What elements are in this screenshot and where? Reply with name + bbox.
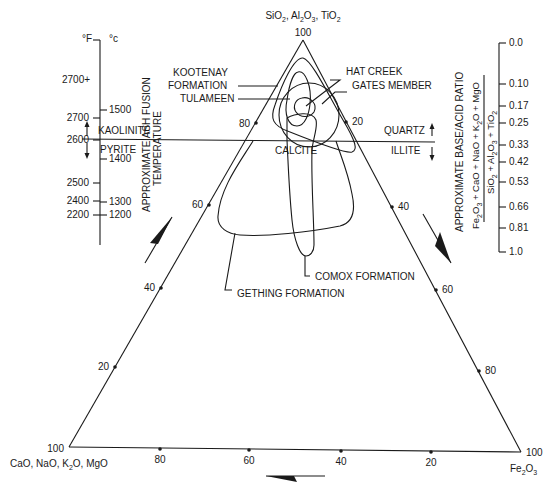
svg-text:20: 20 bbox=[352, 116, 364, 127]
svg-text:0.10: 0.10 bbox=[509, 78, 529, 89]
svg-text:2500: 2500 bbox=[67, 177, 90, 188]
right-apex-value: 100 bbox=[526, 447, 543, 458]
right-apex-label: Fe2O3 bbox=[510, 463, 537, 476]
left-apex-value: 100 bbox=[47, 443, 64, 454]
svg-text:40: 40 bbox=[144, 282, 156, 293]
svg-text:°c: °c bbox=[109, 33, 118, 44]
svg-text:2700+: 2700+ bbox=[62, 74, 90, 85]
svg-text:2200: 2200 bbox=[67, 209, 90, 220]
svg-text:0.0: 0.0 bbox=[509, 37, 523, 48]
base-acid-title: APPROXIMATE BASE/ACID RATIO bbox=[454, 72, 465, 232]
right-direction-arrow-icon bbox=[423, 214, 451, 263]
svg-text:0.25: 0.25 bbox=[509, 117, 529, 128]
comox-formation-field bbox=[287, 114, 316, 256]
comox-label: COMOX FORMATION bbox=[315, 271, 415, 282]
bottom-direction-arrow-icon bbox=[266, 476, 325, 482]
svg-text:80: 80 bbox=[485, 365, 497, 376]
top-apex-value: 100 bbox=[295, 27, 312, 38]
kootenay-label-line1: KOOTENAY bbox=[173, 67, 228, 78]
ternary-diagram: SiO2, Al2O3, TiO2 100 100 CaO, NaO, K2O,… bbox=[0, 0, 556, 498]
svg-text:°F: °F bbox=[82, 33, 92, 44]
svg-text:60: 60 bbox=[192, 199, 204, 210]
svg-text:40: 40 bbox=[398, 201, 410, 212]
svg-text:80: 80 bbox=[239, 118, 251, 129]
gething-label: GETHING FORMATION bbox=[237, 288, 345, 299]
svg-text:0.66: 0.66 bbox=[509, 201, 529, 212]
svg-text:0.17: 0.17 bbox=[509, 100, 529, 111]
svg-text:0.53: 0.53 bbox=[509, 176, 529, 187]
kootenay-label-line2: FORMATION bbox=[168, 80, 227, 91]
svg-text:60: 60 bbox=[442, 284, 454, 295]
svg-text:1300: 1300 bbox=[109, 196, 132, 207]
left-apex-label: CaO, NaO, K2O, MgO bbox=[10, 458, 108, 471]
left-direction-arrow-icon bbox=[145, 217, 172, 263]
svg-text:2600: 2600 bbox=[67, 134, 90, 145]
svg-text:40: 40 bbox=[335, 456, 347, 467]
svg-text:0.81: 0.81 bbox=[509, 222, 529, 233]
svg-text:60: 60 bbox=[243, 455, 255, 466]
gates-member-label: GATES MEMBER bbox=[352, 80, 432, 91]
svg-text:1400: 1400 bbox=[109, 153, 132, 164]
ash-fusion-title-line1: APPROXIMATE ASH FUSION bbox=[141, 77, 152, 212]
svg-text:80: 80 bbox=[154, 454, 166, 465]
svg-text:1.0: 1.0 bbox=[509, 246, 523, 257]
top-apex-label: SiO2, Al2O3, TiO2 bbox=[265, 10, 340, 23]
svg-text:2700: 2700 bbox=[67, 112, 90, 123]
svg-text:1200: 1200 bbox=[109, 209, 132, 220]
base-acid-denominator: SiO2 + Al2O3 + TiO2 bbox=[485, 111, 498, 194]
quartz-label: QUARTZ bbox=[384, 125, 425, 136]
svg-text:20: 20 bbox=[425, 457, 437, 468]
svg-text:1500: 1500 bbox=[109, 104, 132, 115]
divider-line bbox=[82, 139, 435, 142]
svg-text:0.42: 0.42 bbox=[509, 156, 529, 167]
svg-text:20: 20 bbox=[98, 361, 110, 372]
base-acid-numerator: Fe2O3 + CaO + NaO + K2O + MgO bbox=[470, 82, 483, 229]
tulameen-label: TULAMEEN bbox=[180, 93, 234, 104]
svg-text:0.33: 0.33 bbox=[509, 139, 529, 150]
ash-fusion-title-line2: TEMPERATURE bbox=[152, 111, 163, 186]
illite-label: ILLITE bbox=[391, 145, 421, 156]
base-acid-ratio-scale: 0.0 0.10 0.17 0.25 0.33 0.42 0.53 0.66 0… bbox=[499, 37, 529, 257]
hat-creek-label: HAT CREEK bbox=[346, 66, 403, 77]
svg-text:2400: 2400 bbox=[67, 195, 90, 206]
